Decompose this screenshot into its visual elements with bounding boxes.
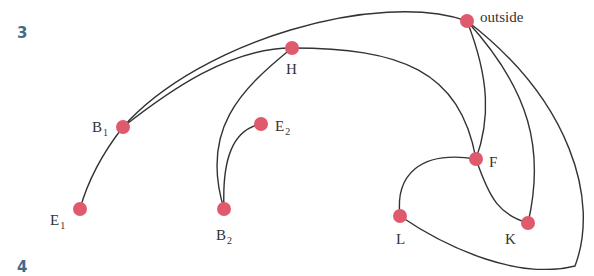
label-e2: E2 [275, 118, 290, 137]
edge-outside-l [400, 21, 583, 270]
node-e2 [254, 117, 268, 131]
node-f [469, 152, 483, 166]
node-h [285, 41, 299, 55]
label-k: K [505, 231, 516, 247]
node-l [393, 209, 407, 223]
label-h: H [286, 61, 297, 77]
edge-outside-f [467, 21, 486, 159]
edge-h-f [292, 48, 476, 159]
label-b2: B2 [216, 227, 232, 246]
edge-e2-b2 [224, 124, 261, 209]
node-b2 [217, 202, 231, 216]
node-k [521, 216, 535, 230]
edge-f-l [399, 157, 476, 216]
edge-f-k [476, 159, 528, 223]
label-b1: B1 [92, 119, 108, 138]
node-e1 [73, 202, 87, 216]
node-b1 [116, 120, 130, 134]
label-l: L [396, 231, 405, 247]
edge-b1-h [123, 48, 292, 127]
node-outside [460, 14, 474, 28]
label-e1: E1 [50, 212, 65, 231]
label-f: F [489, 154, 497, 170]
label-outside: outside [480, 9, 524, 25]
edge-b1-e1 [80, 127, 123, 209]
